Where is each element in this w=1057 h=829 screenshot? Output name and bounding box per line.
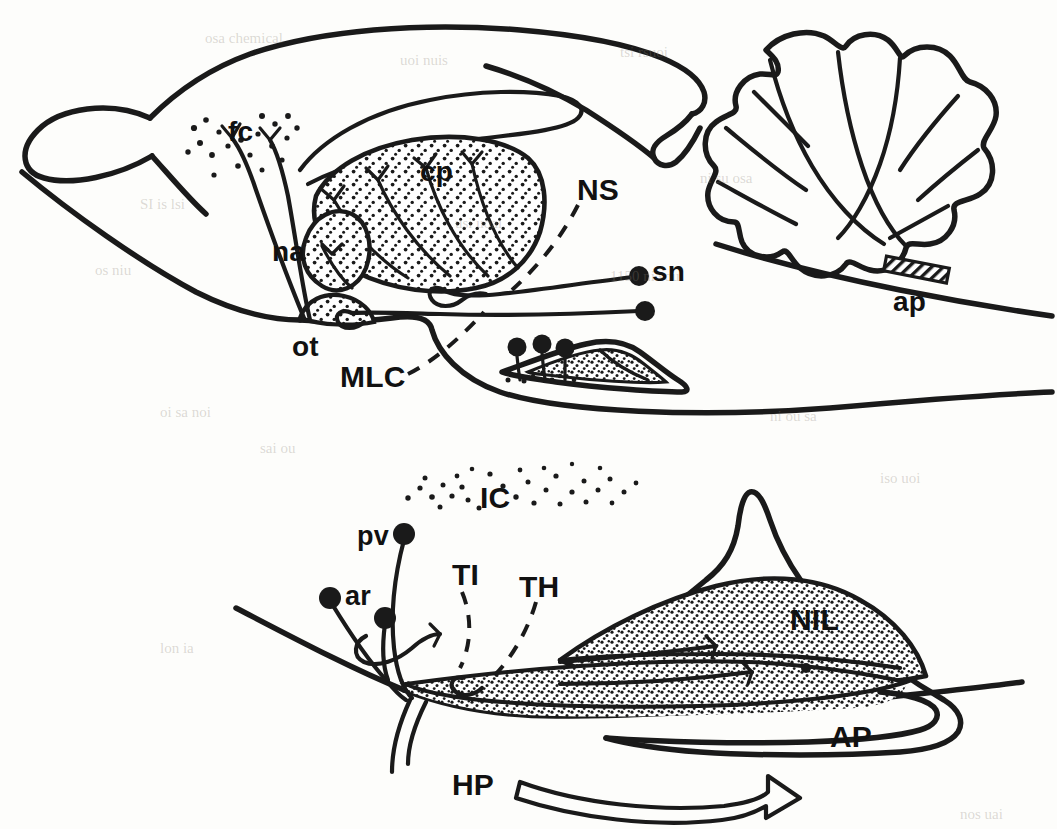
label-nil: NIL: [790, 605, 839, 635]
label-th: TH: [519, 572, 559, 602]
label-fc: fc: [228, 118, 253, 146]
ti-leader-dashed: [460, 592, 469, 668]
mlc-leader-dashed: [408, 312, 484, 374]
tuberoinfundibular-axons: [319, 523, 482, 700]
cerebellum-outline: [705, 32, 996, 275]
label-mlc: MLC: [340, 362, 406, 392]
ic-dot-field: [405, 462, 638, 511]
area-postrema-marker: [884, 256, 950, 283]
hp-vessel-line-inner: [408, 702, 426, 764]
cerebral-cortex-outline: [150, 27, 705, 118]
figure-root: osa chemical uoi nuis tsi rsuoi SI is ls…: [0, 0, 1057, 829]
label-hp: HP: [452, 770, 494, 800]
label-pv: pv: [357, 523, 389, 550]
mesocortical-axons: [222, 124, 310, 320]
figure-illustration: [0, 0, 1057, 829]
brain-base-line-ventral: [300, 317, 1052, 413]
label-ap: AP: [830, 722, 872, 752]
brainstem-dorsal-line: [486, 66, 654, 158]
lower-panel-group: [236, 462, 1022, 823]
hp-arrow-outline: [516, 776, 800, 823]
label-ns: NS: [577, 175, 619, 205]
label-cp: cp: [420, 158, 453, 186]
sn-terminal-dot: [629, 266, 649, 286]
label-sn: sn: [652, 258, 685, 286]
olfactory-bulb-outline: [25, 108, 152, 181]
label-ti: TI: [452, 560, 479, 590]
th-leader-dashed: [492, 602, 536, 678]
label-ap-lower: ap: [893, 288, 926, 316]
ar-terminal-dot: [319, 587, 341, 609]
mesolimbic-axon: [352, 311, 639, 315]
label-ic: IC: [480, 483, 510, 513]
third-terminal-dot: [374, 607, 396, 629]
label-na: na: [272, 238, 305, 266]
pv-terminal-dot: [393, 523, 415, 545]
cortex-ventral-sweep: [152, 156, 206, 214]
cerebellum-group: [705, 32, 996, 275]
label-ot: ot: [292, 333, 319, 361]
label-ar: ar: [345, 583, 371, 610]
mesolimbic-terminal-dot: [635, 301, 655, 321]
midbrain-notch: [653, 114, 700, 165]
upper-panel-group: [22, 27, 1052, 413]
